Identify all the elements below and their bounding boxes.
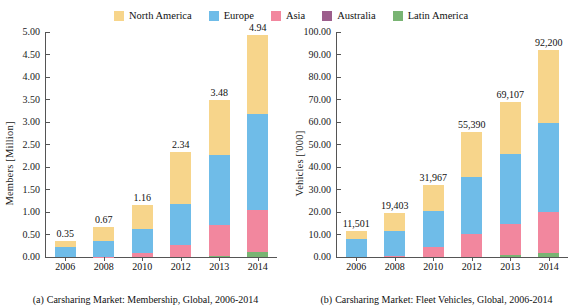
bar-segment-north-america — [423, 185, 444, 211]
legend-swatch-icon — [209, 11, 219, 21]
y-tick-mark — [337, 54, 341, 55]
x-axis-tick-label: 2014 — [248, 257, 268, 272]
stacked-bar[interactable]: 1.16 — [132, 205, 153, 257]
y-tick-label: 4.00 — [23, 72, 47, 82]
stacked-bar[interactable]: 2.34 — [170, 152, 191, 257]
x-axis-tick-label: 2008 — [94, 257, 114, 272]
bar-segment-asia — [538, 212, 559, 253]
y-tick-mark — [46, 234, 50, 235]
bar-segment-north-america — [384, 213, 405, 231]
stacked-bar[interactable]: 0.35 — [55, 241, 76, 257]
bar-total-label: 19,403 — [381, 200, 409, 212]
y-tick-mark — [337, 122, 341, 123]
legend-swatch-icon — [114, 11, 124, 21]
bar-segment-north-america — [538, 50, 559, 124]
bar-slot: 1.162010 — [123, 32, 162, 257]
y-tick-mark — [337, 99, 341, 100]
y-tick-mark — [46, 189, 50, 190]
y-tick-mark — [46, 54, 50, 55]
y-tick-mark — [46, 212, 50, 213]
bar-segment-europe — [346, 239, 367, 257]
bar-slot: 4.942014 — [239, 32, 278, 257]
x-axis-tick-label: 2013 — [209, 257, 229, 272]
y-tick-mark — [337, 77, 341, 78]
y-tick-label: 10.00 — [309, 229, 338, 239]
y-tick-mark — [46, 32, 50, 33]
bar-slot: 19,4032008 — [376, 32, 415, 257]
stacked-bar[interactable]: 4.94 — [247, 35, 268, 257]
bar-segment-asia — [423, 247, 444, 257]
y-tick-label: 4.50 — [23, 49, 47, 59]
bar-total-label: 0.67 — [95, 214, 113, 226]
bar-segment-europe — [209, 155, 230, 225]
stacked-bar[interactable]: 11,501 — [346, 231, 367, 257]
y-tick-label: 80.00 — [309, 72, 338, 82]
legend-item-asia: Asia — [271, 11, 305, 22]
bar-total-label: 2.34 — [172, 139, 190, 151]
bar-total-label: 4.94 — [249, 22, 267, 34]
legend-item-label: Asia — [286, 11, 305, 22]
stacked-bar[interactable]: 3.48 — [209, 100, 230, 257]
bar-total-label: 92,200 — [535, 37, 563, 49]
y-tick-label: 90.00 — [309, 49, 338, 59]
stacked-bar[interactable]: 19,403 — [384, 213, 405, 257]
x-axis-tick-label: 2013 — [500, 257, 520, 272]
caption-a-text: Carsharing Market: Membership, Global, 2… — [47, 294, 259, 305]
legend-item-europe: Europe — [209, 11, 254, 22]
stacked-bar[interactable]: 55,390 — [461, 132, 482, 257]
bar-segment-asia — [170, 245, 191, 257]
bar-slot: 3.482013 — [200, 32, 239, 257]
x-axis-tick-label: 2010 — [423, 257, 443, 272]
bar-segment-europe — [247, 114, 268, 210]
bar-slot: 11,5012006 — [337, 32, 376, 257]
bar-segment-north-america — [209, 100, 230, 154]
caption-b-label: (b) — [321, 294, 333, 305]
x-axis-tick-label: 2012 — [171, 257, 191, 272]
bar-slot: 92,2002014 — [530, 32, 569, 257]
bar-slot: 31,9672010 — [414, 32, 453, 257]
chart-panel-b: Vehicles ['000] 11,501200619,403200831,9… — [291, 26, 582, 308]
legend-item-north-america: North America — [114, 11, 192, 22]
bar-total-label: 0.35 — [57, 228, 75, 240]
legend-swatch-icon — [393, 11, 403, 21]
x-axis-tick-label: 2012 — [462, 257, 482, 272]
legend-item-label: Latin America — [408, 11, 468, 22]
bar-segment-europe — [500, 154, 521, 224]
bar-segment-europe — [55, 247, 76, 257]
bar-group-b: 11,501200619,403200831,967201055,3902012… — [337, 32, 568, 257]
bar-segment-north-america — [93, 227, 114, 241]
y-tick-label: 50.00 — [309, 139, 338, 149]
y-tick-mark — [46, 144, 50, 145]
bar-segment-north-america — [247, 35, 268, 114]
y-tick-label: 2.00 — [23, 162, 47, 172]
x-axis-tick-label: 2010 — [132, 257, 152, 272]
stacked-bar[interactable]: 31,967 — [423, 185, 444, 257]
y-tick-label: 0.50 — [23, 229, 47, 239]
y-tick-mark — [337, 189, 341, 190]
bar-segment-europe — [132, 229, 153, 253]
y-tick-label: 2.50 — [23, 139, 47, 149]
legend-item-label: Europe — [224, 11, 254, 22]
stacked-bar[interactable]: 69,107 — [500, 102, 521, 257]
y-tick-mark — [337, 167, 341, 168]
bar-total-label: 55,390 — [458, 119, 486, 131]
stacked-bar[interactable]: 0.67 — [93, 227, 114, 257]
bar-segment-europe — [93, 241, 114, 256]
bar-slot: 0.672008 — [85, 32, 124, 257]
y-tick-label: 3.50 — [23, 94, 47, 104]
legend-item-latin-america: Latin America — [393, 11, 468, 22]
y-tick-label: 0.00 — [314, 252, 338, 262]
y-tick-mark — [46, 167, 50, 168]
y-tick-mark — [337, 212, 341, 213]
bar-total-label: 11,501 — [343, 218, 370, 230]
legend-swatch-icon — [322, 11, 332, 21]
figure-carsharing-market: North AmericaEuropeAsiaAustraliaLatin Am… — [0, 0, 582, 308]
stacked-bar[interactable]: 92,200 — [538, 50, 559, 257]
bar-total-label: 1.16 — [134, 192, 152, 204]
bar-segment-europe — [423, 211, 444, 248]
bar-total-label: 31,967 — [420, 172, 448, 184]
bar-segment-asia — [247, 210, 268, 252]
chart-panel-a: Members [Million] 0.3520060.6720081.1620… — [0, 26, 291, 308]
bar-segment-europe — [538, 123, 559, 212]
bar-segment-asia — [500, 224, 521, 255]
